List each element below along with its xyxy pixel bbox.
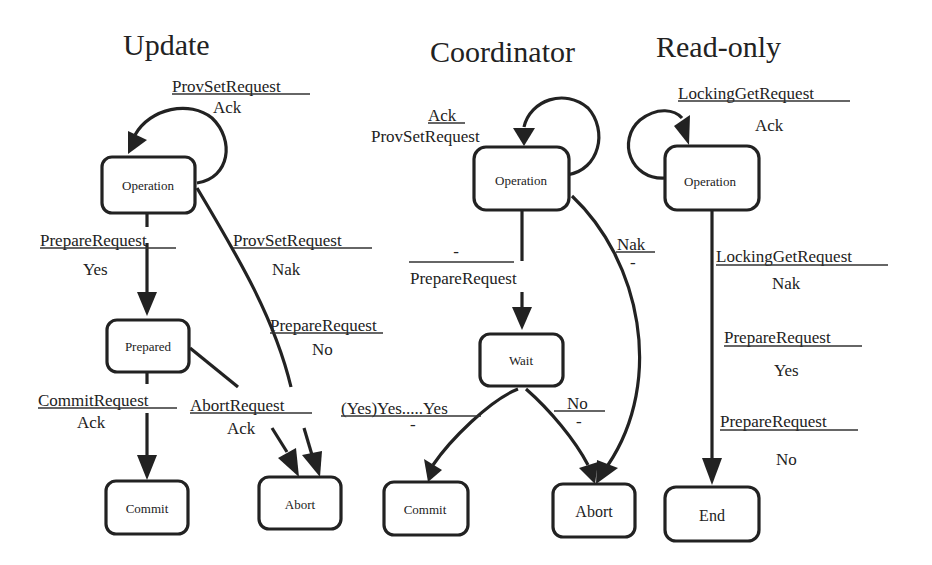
arrowhead-icon (512, 307, 532, 330)
transition-input-label: LockingGetRequest (678, 84, 814, 103)
transition-output-label: Yes (83, 260, 108, 279)
state-label: End (699, 507, 725, 524)
state-label: Abort (285, 497, 316, 512)
state-machine-diagram: Update ProvSetRequest Ack Operation Prep… (0, 0, 932, 565)
transition-input-label: PrepareRequest (270, 316, 377, 335)
state-label: Commit (404, 502, 447, 517)
machine-title: Coordinator (430, 35, 575, 68)
arrowhead-icon (579, 462, 598, 484)
transition-output-label: - (630, 253, 636, 272)
edge (272, 428, 287, 452)
arrowhead-icon (128, 131, 147, 154)
transition-input-label: Nak (617, 235, 646, 254)
machine-update: Update ProvSetRequest Ack Operation Prep… (38, 28, 383, 534)
transition-output-label: No (312, 340, 333, 359)
transition-input-label: PrepareRequest (720, 412, 827, 431)
transition-input-label: AbortRequest (190, 396, 285, 415)
transition-output-label: Ack (755, 116, 784, 135)
arrowhead-icon (702, 458, 722, 485)
state-label: Operation (122, 178, 174, 193)
transition-output-label: Ack (213, 98, 242, 117)
arrowhead-icon (596, 460, 618, 484)
transition-output-label: - (576, 412, 582, 431)
edge (304, 428, 312, 455)
state-label: Operation (495, 173, 547, 188)
transition-output-label: Ack (227, 419, 256, 438)
transition-input-label: PrepareRequest (40, 231, 147, 250)
transition-output-label: Nak (272, 260, 301, 279)
edge (190, 348, 238, 387)
transition-input-label: LockingGetRequest (716, 247, 852, 266)
transition-output-label: Yes (774, 361, 799, 380)
machine-title: Update (123, 28, 210, 61)
edge (197, 188, 291, 387)
transition-output-label: PrepareRequest (410, 269, 517, 288)
transition-input-label: No (567, 394, 588, 413)
arrowhead-icon (302, 451, 322, 477)
state-label: Wait (509, 353, 534, 368)
transition-input-label: ProvSetRequest (233, 231, 342, 250)
transition-input-label: - (453, 242, 459, 261)
state-label: Commit (126, 501, 169, 516)
transition-input-label: (Yes)Yes.....Yes (341, 399, 448, 418)
state-label: Operation (684, 174, 736, 189)
arrowhead-icon (137, 292, 157, 316)
state-label: Prepared (125, 339, 172, 354)
machine-coordinator: Coordinator Ack ProvSetRequest Operation… (341, 35, 655, 537)
transition-output-label: - (410, 415, 416, 434)
transition-output-label: ProvSetRequest (371, 127, 480, 146)
arrowhead-icon (278, 448, 299, 477)
arrowhead-icon (674, 115, 690, 145)
transition-output-label: Ack (77, 413, 106, 432)
arrowhead-icon (137, 455, 157, 480)
transition-input-label: PrepareRequest (724, 328, 831, 347)
transition-input-label: Ack (428, 106, 457, 125)
state-label: Abort (575, 503, 613, 520)
machine-title: Read-only (656, 30, 781, 63)
transition-input-label: CommitRequest (38, 391, 149, 410)
machine-readonly: Read-only LockingGetRequest Ack Operatio… (628, 30, 888, 541)
transition-input-label: ProvSetRequest (172, 77, 281, 96)
transition-output-label: Nak (772, 274, 801, 293)
arrowhead-icon (513, 128, 535, 146)
transition-output-label: No (776, 450, 797, 469)
